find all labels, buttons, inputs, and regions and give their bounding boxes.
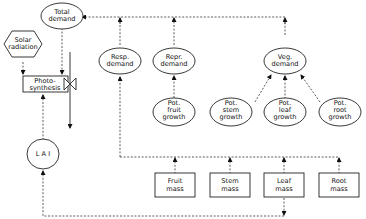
node-stem-mass: Stem mass <box>210 173 250 197</box>
root-mass-line2: mass <box>330 185 348 193</box>
node-repr-demand: Repr. demand <box>153 48 195 74</box>
node-pot-leaf-growth: Pot. leaf growth <box>264 98 306 126</box>
repr-demand-line2: demand <box>160 60 187 68</box>
veg-demand-line2: demand <box>271 60 298 68</box>
stem-mass-line1: Stem <box>221 177 238 185</box>
fruit-mass-line2: mass <box>166 185 184 193</box>
node-veg-demand: Veg. demand <box>264 48 306 74</box>
root-growth-to-veg-edge <box>301 75 320 102</box>
stem-growth-to-veg-edge <box>255 75 271 102</box>
pot-root-line3: growth <box>329 113 352 121</box>
root-mass-line1: Root <box>332 177 347 185</box>
resp-demand-line2: demand <box>106 60 133 68</box>
node-pot-stem-growth: Pot. stem growth <box>210 98 252 126</box>
pot-fruit-line3: growth <box>163 113 186 121</box>
node-solar-radiation: Solar radiation <box>4 31 42 57</box>
stem-mass-line2: mass <box>221 185 239 193</box>
node-photosynthesis: Photo- synthesis <box>23 76 76 92</box>
leaf-mass-line2: mass <box>275 185 293 193</box>
fruit-mass-line1: Fruit <box>168 177 183 185</box>
pot-leaf-line3: growth <box>274 113 297 121</box>
node-lai: L A I <box>27 139 59 169</box>
crop-model-diagram: Total demand Solar radiation Photo- synt… <box>0 0 366 219</box>
node-total-demand: Total demand <box>41 3 83 29</box>
node-resp-demand: Resp. demand <box>99 48 141 74</box>
node-pot-fruit-growth: Pot. fruit growth <box>153 98 195 126</box>
leaf-mass-line1: Leaf <box>277 177 292 185</box>
photosynthesis-line2: synthesis <box>29 84 61 92</box>
total-demand-line2: demand <box>48 15 75 23</box>
solar-radiation-line2: radiation <box>8 43 37 51</box>
lai-label: L A I <box>36 150 50 158</box>
pot-stem-line3: growth <box>220 113 243 121</box>
node-pot-root-growth: Pot. root growth <box>319 98 361 126</box>
node-leaf-mass: Leaf mass <box>264 173 304 197</box>
veg-to-total-edge <box>82 17 285 35</box>
node-root-mass: Root mass <box>319 173 359 197</box>
node-fruit-mass: Fruit mass <box>155 173 195 197</box>
